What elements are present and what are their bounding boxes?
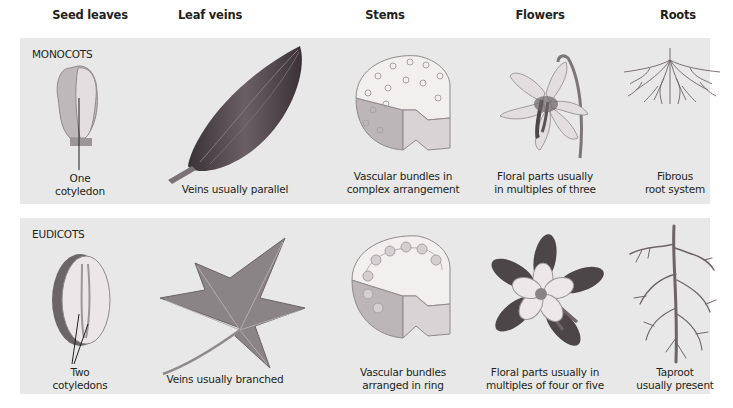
caption-floral-four-five: Floral parts usually inmultiples of four…	[475, 366, 615, 392]
caption-veins-branched: Veins usually branched	[155, 373, 295, 386]
column-header-seed-leaves: Seed leaves	[30, 8, 150, 22]
caption-fibrous-root: Fibrousroot system	[620, 170, 730, 196]
monocot-leaf-cell: Veins usually parallel	[160, 38, 310, 204]
caption-veins-parallel: Veins usually parallel	[160, 183, 310, 196]
column-header-flowers: Flowers	[480, 8, 600, 22]
branched-vein-leaf-icon	[135, 218, 315, 394]
eudicot-flower-cell: Floral parts usually inmultiples of four…	[475, 218, 615, 394]
monocot-flower-cell: Floral parts usuallyin multiples of thre…	[480, 38, 610, 204]
column-header-leaf-veins: Leaf veins	[150, 8, 270, 22]
eudicot-stem-cell: Vascular bundlesarranged in ring	[338, 218, 468, 394]
parallel-vein-leaf-icon	[160, 38, 310, 204]
caption-floral-three: Floral parts usuallyin multiples of thre…	[480, 170, 610, 196]
eudicot-seed-cell: Twocotyledons	[30, 218, 130, 394]
monocot-root-cell: Fibrousroot system	[620, 38, 730, 204]
eudicots-panel: EUDICOTS Twocotyledons Veins usually bra…	[20, 218, 710, 394]
column-header-roots: Roots	[618, 8, 733, 22]
caption-taproot: Taprootusually present	[620, 366, 730, 392]
monocot-stem-cell: Vascular bundles incomplex arrangement	[338, 38, 468, 204]
eudicot-leaf-cell: Veins usually branched	[135, 218, 315, 394]
eudicot-root-cell: Taprootusually present	[620, 218, 730, 394]
monocot-seed-cell: Onecotyledon	[30, 38, 130, 204]
column-header-stems: Stems	[325, 8, 445, 22]
caption-vascular-ring: Vascular bundlesarranged in ring	[338, 366, 468, 392]
caption-one-cotyledon: Onecotyledon	[30, 172, 130, 198]
caption-vascular-complex: Vascular bundles incomplex arrangement	[338, 170, 468, 196]
caption-two-cotyledons: Twocotyledons	[30, 366, 130, 392]
monocots-panel: MONOCOTS Onecotyledon Veins usually para…	[20, 38, 710, 204]
